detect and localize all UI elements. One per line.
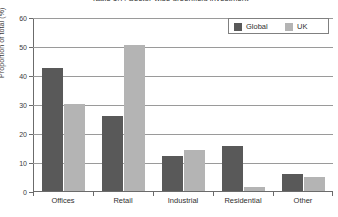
chart-legend: Global UK <box>228 18 329 34</box>
y-tick-label: 10 <box>5 160 27 167</box>
bar-retail-uk[interactable] <box>124 45 145 191</box>
legend-label-uk: UK <box>297 23 307 31</box>
x-axis-line <box>33 191 333 192</box>
x-tick-label-industrial: Industrial <box>153 196 213 205</box>
bar-residential-uk[interactable] <box>244 187 265 191</box>
bar-group-industrial <box>162 18 205 191</box>
bar-other-uk[interactable] <box>304 177 325 192</box>
y-tick-label: 20 <box>5 131 27 138</box>
y-tick-mark <box>29 76 33 77</box>
legend-swatch-uk-icon <box>285 23 293 31</box>
bar-group-retail <box>102 18 145 191</box>
bar-offices-global[interactable] <box>42 68 63 191</box>
x-tick-label-offices: Offices <box>33 196 93 205</box>
y-tick-mark <box>29 105 33 106</box>
x-tick-label-retail: Retail <box>93 196 153 205</box>
legend-entry-uk[interactable]: UK <box>285 22 307 32</box>
bar-retail-global[interactable] <box>102 116 123 191</box>
x-tick-label-residential: Residential <box>213 196 273 205</box>
legend-swatch-global-icon <box>234 23 242 31</box>
y-tick-mark <box>29 134 33 135</box>
y-tick-mark <box>29 163 33 164</box>
y-tick-label: 50 <box>5 44 27 51</box>
y-tick-label: 60 <box>5 15 27 22</box>
plot-area: 0102030405060 <box>33 18 333 192</box>
x-tick-label-other: Other <box>273 196 333 205</box>
bar-other-global[interactable] <box>282 174 303 191</box>
bar-offices-uk[interactable] <box>64 104 85 191</box>
bar-group-other <box>282 18 325 191</box>
legend-entry-global[interactable]: Global <box>234 22 268 32</box>
bar-group-offices <box>42 18 85 191</box>
y-tick-label: 40 <box>5 73 27 80</box>
bar-residential-global[interactable] <box>222 146 243 191</box>
chart-title: Table 1.7: Sector-wise greenfield invest… <box>30 0 310 1</box>
y-tick-label: 30 <box>5 102 27 109</box>
y-tick-mark <box>29 18 33 19</box>
bar-group-residential <box>222 18 265 191</box>
bar-chart: Table 1.7: Sector-wise greenfield invest… <box>0 0 338 217</box>
legend-label-global: Global <box>246 23 268 31</box>
bar-industrial-global[interactable] <box>162 156 183 191</box>
y-tick-mark <box>29 47 33 48</box>
bar-industrial-uk[interactable] <box>184 150 205 191</box>
y-tick-label: 0 <box>5 189 27 196</box>
